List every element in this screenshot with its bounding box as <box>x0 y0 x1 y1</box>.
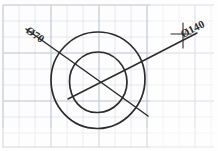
sketch-page: Ø70 Ø140 <box>0 0 218 151</box>
grid-fade-overlay-bottom <box>0 128 218 151</box>
sketch-canvas: Ø70 Ø140 <box>0 0 218 151</box>
